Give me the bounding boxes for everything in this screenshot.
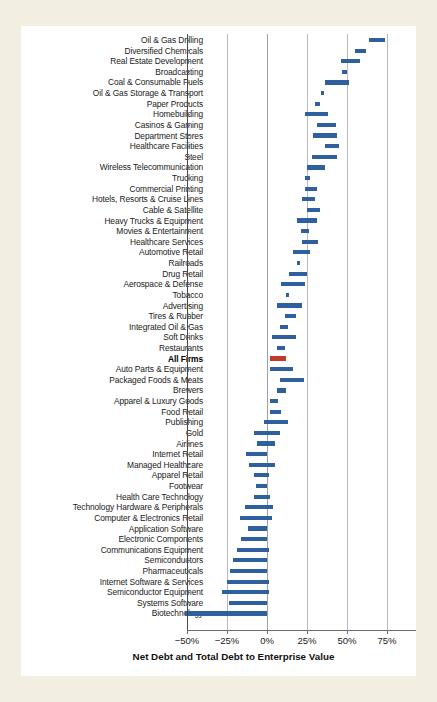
category-label: Packaged Foods & Meats [21, 375, 203, 385]
range-bar [369, 38, 385, 42]
category-label: Commercial Printing [21, 184, 203, 194]
category-label: Airlines [21, 439, 203, 449]
category-label: Broadcasting [21, 67, 203, 77]
chart-row: Apparel Retail [21, 470, 416, 480]
category-label: Automotive Retail [21, 247, 203, 257]
range-bar [248, 526, 267, 530]
chart-row: Apparel & Luxury Goods [21, 396, 416, 406]
category-label: Computer & Electronics Retail [21, 513, 203, 523]
category-label: Footwear [21, 481, 203, 491]
chart-x-axis-label: Net Debt and Total Debt to Enterprise Va… [21, 651, 416, 662]
x-axis-tick-label: 50% [327, 635, 367, 646]
chart-row: Cable & Satellite [21, 205, 416, 215]
range-bar [254, 473, 268, 477]
category-label: Advertising [21, 301, 203, 311]
chart-row: Paper Products [21, 99, 416, 109]
chart-row: Auto Parts & Equipment [21, 364, 416, 374]
chart-y-axis-spine [187, 34, 188, 630]
range-bar [321, 91, 323, 95]
chart-row: Packaged Foods & Meats [21, 375, 416, 385]
chart-x-axis-line [187, 630, 416, 631]
chart-row: Commercial Printing [21, 184, 416, 194]
category-label: Apparel Retail [21, 470, 203, 480]
category-label: Electronic Components [21, 534, 203, 544]
category-label: Wireless Telecommunication [21, 162, 203, 172]
range-bar [325, 80, 349, 84]
chart-row: Soft Drinks [21, 332, 416, 342]
chart-row: Footwear [21, 481, 416, 491]
x-axis-tick-label: −25% [207, 635, 247, 646]
category-label: Semiconductor Equipment [21, 587, 203, 597]
range-bar [246, 452, 267, 456]
range-bar [293, 250, 311, 254]
chart-row: Casinos & Gaming [21, 120, 416, 130]
category-label: Systems Software [21, 598, 203, 608]
chart-row: Internet Retail [21, 449, 416, 459]
category-label: Technology Hardware & Peripherals [21, 502, 203, 512]
range-bar [270, 399, 278, 403]
chart-row: Gold [21, 428, 416, 438]
category-label: Tires & Rubber [21, 311, 203, 321]
chart-row: Communications Equipment [21, 545, 416, 555]
x-axis-tick-label: 75% [367, 635, 407, 646]
chart-row: Automotive Retail [21, 247, 416, 257]
range-bar [307, 208, 320, 212]
range-bar [289, 272, 307, 276]
x-axis-tick-label: −50% [167, 635, 207, 646]
category-label: Drug Retail [21, 269, 203, 279]
category-label: Managed Healthcare [21, 460, 203, 470]
chart-row: Restaurants [21, 343, 416, 353]
chart-row: Railroads [21, 258, 416, 268]
chart-row: Food Retail [21, 407, 416, 417]
chart-figure: Oil & Gas DrillingDiversified ChemicalsR… [21, 26, 416, 676]
chart-row: Integrated Oil & Gas [21, 322, 416, 332]
range-bar [254, 495, 270, 499]
category-label: Aerospace & Defense [21, 279, 203, 289]
chart-row: Biotechnology [21, 608, 416, 618]
category-label: Tobacco [21, 290, 203, 300]
chart-row: Health Care Technology [21, 492, 416, 502]
range-bar [297, 218, 316, 222]
category-label: Brewers [21, 385, 203, 395]
chart-row: Publishing [21, 417, 416, 427]
category-label: Hotels, Resorts & Cruise Lines [21, 194, 203, 204]
range-bar [280, 325, 288, 329]
range-bar [297, 261, 299, 265]
range-bar [280, 378, 304, 382]
range-bar [222, 590, 268, 594]
x-axis-tick-label: 0% [247, 635, 287, 646]
chart-row: Department Stores [21, 131, 416, 141]
range-bar [264, 420, 288, 424]
category-label: Communications Equipment [21, 545, 203, 555]
range-bar [302, 197, 315, 201]
range-bar [305, 112, 327, 116]
category-label: Auto Parts & Equipment [21, 364, 203, 374]
chart-plot-area: Oil & Gas DrillingDiversified ChemicalsR… [21, 26, 416, 676]
chart-row: Tires & Rubber [21, 311, 416, 321]
chart-row: Technology Hardware & Peripherals [21, 502, 416, 512]
x-axis-tick [307, 630, 308, 634]
chart-row: Hotels, Resorts & Cruise Lines [21, 194, 416, 204]
chart-row: Diversified Chemicals [21, 46, 416, 56]
category-label: Gold [21, 428, 203, 438]
range-bar [305, 187, 316, 191]
x-axis-tick [347, 630, 348, 634]
category-label: All Firms [21, 354, 203, 364]
range-bar [317, 123, 336, 127]
range-bar [315, 102, 320, 106]
category-label: Pharmaceuticals [21, 566, 203, 576]
range-bar [230, 569, 267, 573]
range-bar [241, 537, 267, 541]
chart-row: Aerospace & Defense [21, 279, 416, 289]
chart-row: Managed Healthcare [21, 460, 416, 470]
x-axis-tick-label: 25% [287, 635, 327, 646]
category-label: Railroads [21, 258, 203, 268]
chart-row: Computer & Electronics Retail [21, 513, 416, 523]
chart-row: Healthcare Facilities [21, 141, 416, 151]
chart-row: Drug Retail [21, 269, 416, 279]
chart-row: Oil & Gas Storage & Transport [21, 88, 416, 98]
category-label: Real Estate Development [21, 56, 203, 66]
category-label: Oil & Gas Drilling [21, 35, 203, 45]
range-bar [233, 558, 267, 562]
range-bar [270, 367, 292, 371]
